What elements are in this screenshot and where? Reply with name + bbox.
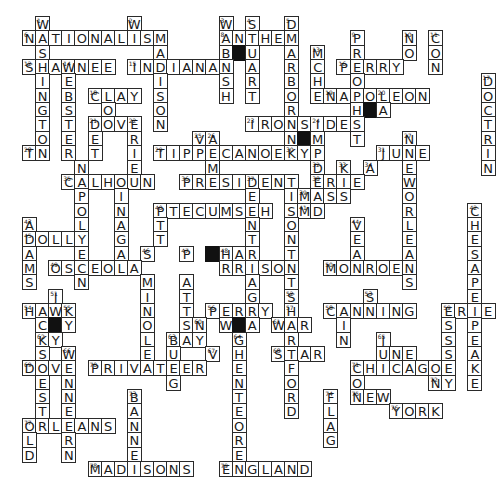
crossword-cell[interactable]: Y bbox=[61, 317, 76, 333]
cell-letter: M bbox=[311, 46, 324, 59]
crossword-cell[interactable]: 34A bbox=[363, 160, 378, 176]
cell-letter: T bbox=[36, 405, 49, 418]
crossword-cell[interactable]: N bbox=[153, 116, 168, 132]
cell-letter: R bbox=[246, 75, 259, 88]
crossword-cell[interactable]: N bbox=[481, 160, 496, 176]
cell-letter: R bbox=[351, 46, 364, 59]
cell-letter: T bbox=[154, 362, 167, 375]
cell-letter: M bbox=[311, 133, 324, 146]
cell-letter: D bbox=[154, 61, 167, 74]
cell-letter: M bbox=[324, 262, 337, 275]
cell-letter: E bbox=[62, 362, 75, 375]
crossword-cell[interactable]: A bbox=[245, 317, 260, 333]
crossword-cell[interactable]: A bbox=[376, 102, 391, 118]
crossword-cell[interactable]: G bbox=[323, 432, 338, 448]
crossword-cell[interactable]: E bbox=[467, 375, 482, 391]
crossword-cell[interactable]: K bbox=[428, 403, 443, 419]
cell-letter: L bbox=[115, 262, 128, 275]
crossword-cell[interactable]: S bbox=[336, 188, 351, 204]
crossword-cell[interactable]: S bbox=[101, 418, 116, 434]
crossword-cell[interactable]: 47P bbox=[179, 246, 194, 262]
cell-letter: S bbox=[298, 118, 311, 131]
cell-letter: A bbox=[154, 46, 167, 59]
crossword-cell[interactable]: S bbox=[22, 274, 37, 290]
cell-letter: E bbox=[311, 176, 324, 189]
cell-letter: O bbox=[49, 262, 62, 275]
crossword-cell[interactable]: T bbox=[350, 131, 365, 147]
crossword-cell[interactable]: N bbox=[415, 88, 430, 104]
crossword-cell[interactable]: R bbox=[297, 317, 312, 333]
crossword-cell[interactable]: N bbox=[336, 332, 351, 348]
crossword-cell[interactable]: Y bbox=[389, 59, 404, 75]
crossword-cell[interactable]: E bbox=[481, 303, 496, 319]
crossword-cell[interactable]: D bbox=[284, 403, 299, 419]
cell-letter: E bbox=[62, 405, 75, 418]
cell-letter: N bbox=[128, 434, 141, 447]
cell-letter: R bbox=[285, 61, 298, 74]
cell-letter: P bbox=[311, 147, 324, 160]
cell-letter: O bbox=[233, 420, 246, 433]
crossword-cell[interactable]: H bbox=[258, 203, 273, 219]
cell-letter: O bbox=[23, 420, 36, 433]
cell-letter: R bbox=[62, 434, 75, 447]
cell-letter: N bbox=[193, 61, 206, 74]
crossword-cell[interactable]: G bbox=[402, 303, 417, 319]
cell-letter: S bbox=[272, 348, 285, 361]
crossword-cell[interactable]: D bbox=[310, 203, 325, 219]
crossword-cell[interactable]: E bbox=[415, 145, 430, 161]
cell-letter: R bbox=[102, 362, 115, 375]
cell-letter: L bbox=[23, 434, 36, 447]
cell-letter: I bbox=[468, 305, 481, 318]
crossword-cell[interactable]: D bbox=[297, 461, 312, 477]
crossword-cell[interactable]: E bbox=[101, 59, 116, 75]
cell-letter: N bbox=[246, 219, 259, 232]
cell-letter: M bbox=[298, 204, 311, 217]
crossword-cell[interactable]: R bbox=[192, 360, 207, 376]
crossword-cell[interactable]: T bbox=[88, 145, 103, 161]
cell-letter: W bbox=[62, 61, 75, 74]
cell-letter: O bbox=[403, 190, 416, 203]
cell-letter: H bbox=[36, 61, 49, 74]
crossword-cell[interactable]: 46S bbox=[140, 246, 155, 262]
cell-letter: R bbox=[416, 405, 429, 418]
crossword-cell[interactable]: N bbox=[140, 174, 155, 190]
crossword-cell[interactable]: Y bbox=[441, 375, 456, 391]
cell-letter: N bbox=[154, 118, 167, 131]
crossword-cell[interactable]: 67V bbox=[205, 346, 220, 362]
cell-letter: O bbox=[141, 319, 154, 332]
crossword-cell[interactable]: S bbox=[179, 461, 194, 477]
crossword-cell[interactable]: T bbox=[153, 231, 168, 247]
crossword-cell[interactable]: N bbox=[74, 274, 89, 290]
cell-letter: P bbox=[154, 204, 167, 217]
cell-letter: U bbox=[128, 176, 141, 189]
crossword-cell[interactable]: N bbox=[35, 145, 50, 161]
cell-letter: N bbox=[285, 133, 298, 146]
cell-letter: S bbox=[62, 104, 75, 117]
cell-letter: A bbox=[403, 247, 416, 260]
cell-letter: N bbox=[429, 61, 442, 74]
cell-letter: N bbox=[36, 90, 49, 103]
crossword-cell[interactable]: G bbox=[166, 375, 181, 391]
cell-letter: A bbox=[102, 463, 115, 476]
cell-letter: N bbox=[193, 319, 206, 332]
cell-letter: A bbox=[23, 247, 36, 260]
crossword-cell[interactable]: N bbox=[428, 59, 443, 75]
crossword-cell[interactable]: E bbox=[350, 174, 365, 190]
crossword-cell[interactable]: O bbox=[402, 45, 417, 61]
crossword-cell[interactable]: D bbox=[22, 447, 37, 463]
cell-letter: A bbox=[337, 90, 350, 103]
cell-letter: R bbox=[311, 348, 324, 361]
cell-letter: I bbox=[246, 262, 259, 275]
cell-letter: L bbox=[141, 333, 154, 346]
crossword-cell[interactable]: H bbox=[219, 88, 234, 104]
crossword-cell[interactable]: Y bbox=[127, 88, 142, 104]
cell-letter: I bbox=[482, 147, 495, 160]
crossword-cell[interactable]: T bbox=[245, 88, 260, 104]
cell-letter: E bbox=[102, 61, 115, 74]
crossword-cell[interactable]: S bbox=[402, 274, 417, 290]
cell-letter: P bbox=[468, 276, 481, 289]
cell-letter: G bbox=[167, 377, 180, 390]
crossword-cell[interactable]: N bbox=[61, 447, 76, 463]
crossword-cell[interactable]: R bbox=[310, 346, 325, 362]
